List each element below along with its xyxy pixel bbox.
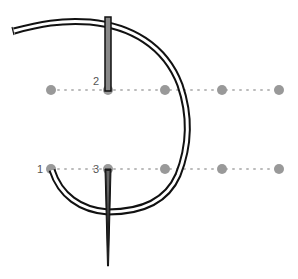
grid-dots xyxy=(46,85,284,174)
point-label-2: 2 xyxy=(93,76,99,87)
point-label-3: 3 xyxy=(93,164,99,175)
stitch-diagram: 2 1 3 xyxy=(0,0,298,279)
diagram-graphic xyxy=(0,0,298,279)
needle-top xyxy=(105,17,111,91)
point-label-1: 1 xyxy=(37,164,43,175)
thread xyxy=(12,21,187,212)
